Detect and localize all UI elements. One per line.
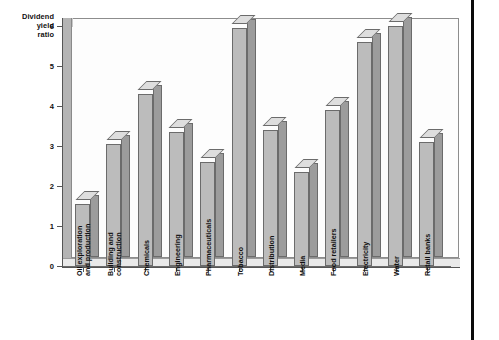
bar-side-face [278, 121, 287, 257]
y-axis-line [62, 18, 63, 267]
x-axis-label-line-1: Oil exploration [75, 226, 84, 276]
x-axis-label-line-1: Electricity [361, 242, 370, 276]
plot-area: 0123456 [62, 18, 460, 266]
bar-front-face [294, 172, 309, 266]
chart-screenshot: Dividend yield ratio 0123456 Oil explora… [0, 0, 499, 340]
bar-front-face [388, 26, 403, 266]
x-axis-label-line-1: Retail banks [423, 234, 432, 276]
y-axis-tick-label: 5 [40, 62, 54, 71]
x-axis-label: Building andconstruction [107, 232, 124, 276]
y-axis-tick [57, 106, 62, 107]
plot-left-wall [62, 18, 72, 266]
y-axis-tick-label: 1 [40, 222, 54, 231]
y-axis-tick-label: 0 [40, 262, 54, 271]
x-axis-label: Electricity [362, 242, 370, 276]
x-axis-label-line-1: Chemicals [142, 240, 151, 276]
bar [294, 163, 318, 266]
bar-side-face [403, 17, 412, 257]
x-axis-label: Retail banks [424, 234, 432, 276]
y-axis-tick [57, 146, 62, 147]
bar-side-face [153, 85, 162, 257]
bar-front-face [357, 42, 372, 266]
x-axis-label-line-1: Tobacco [236, 247, 245, 276]
x-axis-label: Chemicals [143, 240, 151, 276]
bar [357, 33, 381, 266]
bar-side-face [215, 153, 224, 257]
y-axis-tick [57, 66, 62, 67]
bar [388, 17, 412, 266]
x-axis-label-line-1: Food retailers [329, 228, 338, 276]
x-axis-label-line-2: and production [84, 224, 92, 276]
x-axis-label: Distribution [268, 236, 276, 276]
x-axis-label: Media [299, 256, 307, 276]
y-axis-title-line-1: Dividend [22, 12, 54, 21]
bar [138, 85, 162, 266]
bar-side-face [340, 101, 349, 257]
bar-side-face [247, 19, 256, 257]
y-axis-tick [57, 226, 62, 227]
bar-front-face [232, 28, 247, 266]
x-axis-label-line-1: Distribution [267, 236, 276, 276]
x-axis-label-line-1: Pharmaceuticals [204, 219, 213, 276]
bar-side-face [434, 133, 443, 257]
x-axis-label: Tobacco [237, 247, 245, 276]
x-axis-label: Oil explorationand production [76, 224, 93, 276]
x-axis-label: Pharmaceuticals [205, 219, 213, 276]
bar-side-face [372, 33, 381, 257]
x-axis-label-line-2: construction [115, 232, 123, 276]
x-axis-label-line-1: Media [298, 256, 307, 276]
x-axis-label: Food retailers [330, 228, 338, 276]
bar [232, 19, 256, 266]
y-axis-tick-label: 6 [40, 22, 54, 31]
y-axis-tick-label: 2 [40, 182, 54, 191]
x-axis-label: Engineering [174, 234, 182, 276]
x-axis-label-line-1: Water [392, 256, 401, 276]
y-axis-tick [57, 26, 62, 27]
x-axis-label-line-1: Engineering [173, 234, 182, 276]
y-axis-tick-label: 4 [40, 102, 54, 111]
x-axis-label: Water [393, 256, 401, 276]
page-edge-rule [471, 0, 474, 340]
y-axis-title-line-3: ratio [37, 30, 54, 39]
bar-side-face [309, 163, 318, 257]
bar-side-face [184, 123, 193, 257]
y-axis-tick-label: 3 [40, 142, 54, 151]
y-axis-tick [57, 186, 62, 187]
